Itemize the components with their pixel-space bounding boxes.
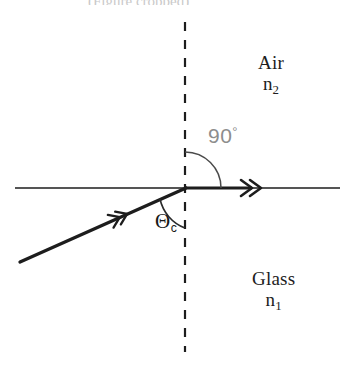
incident-ray-arrowhead-icon xyxy=(108,208,130,228)
refraction-angle-label: 90° xyxy=(208,124,238,148)
upper-medium-name: Air xyxy=(258,52,284,73)
critical-angle-symbol: Θ xyxy=(155,209,170,233)
optics-diagram: (Figure cropped) Air n2 Glass n1 xyxy=(0,0,353,370)
lower-medium-index-subscript: 1 xyxy=(275,298,281,313)
critical-angle-label: Θc xyxy=(155,209,177,235)
lower-medium-label: Glass n1 xyxy=(252,268,295,314)
upper-medium-label: Air n2 xyxy=(258,52,284,98)
refraction-angle-value: 90 xyxy=(208,124,232,147)
upper-medium-index-symbol: n xyxy=(263,73,273,94)
lower-medium-index: n1 xyxy=(252,289,295,314)
upper-medium-index: n2 xyxy=(258,73,284,98)
upper-medium-index-subscript: 2 xyxy=(273,82,279,97)
degree-symbol-icon: ° xyxy=(232,124,238,139)
lower-medium-index-symbol: n xyxy=(266,289,276,310)
critical-angle-subscript: c xyxy=(171,221,177,235)
lower-medium-name: Glass xyxy=(252,268,295,289)
angle-arc-90 xyxy=(185,152,221,188)
diagram-canvas xyxy=(0,0,353,370)
